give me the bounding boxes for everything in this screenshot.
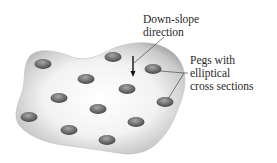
- pegs-label-line1: Pegs with: [190, 54, 235, 66]
- peg: [61, 125, 78, 135]
- downslope-direction-label: Down-slopedirection: [143, 13, 199, 39]
- peg: [105, 52, 122, 62]
- pegs-label: Pegs withellipticalcross sections: [190, 54, 254, 93]
- peg: [145, 64, 162, 74]
- pegs-label-line3: cross sections: [190, 80, 254, 92]
- peg: [35, 59, 52, 69]
- peg: [51, 93, 68, 103]
- peg: [21, 112, 38, 122]
- peg: [90, 104, 107, 114]
- peg: [119, 84, 136, 94]
- peg: [128, 117, 145, 127]
- peg: [78, 74, 95, 84]
- pegs-label-line2: elliptical: [190, 67, 230, 79]
- peg: [99, 135, 116, 145]
- peg: [157, 97, 174, 107]
- downslope-label-line1: Down-slope: [143, 13, 199, 25]
- downslope-label-line2: direction: [143, 26, 184, 38]
